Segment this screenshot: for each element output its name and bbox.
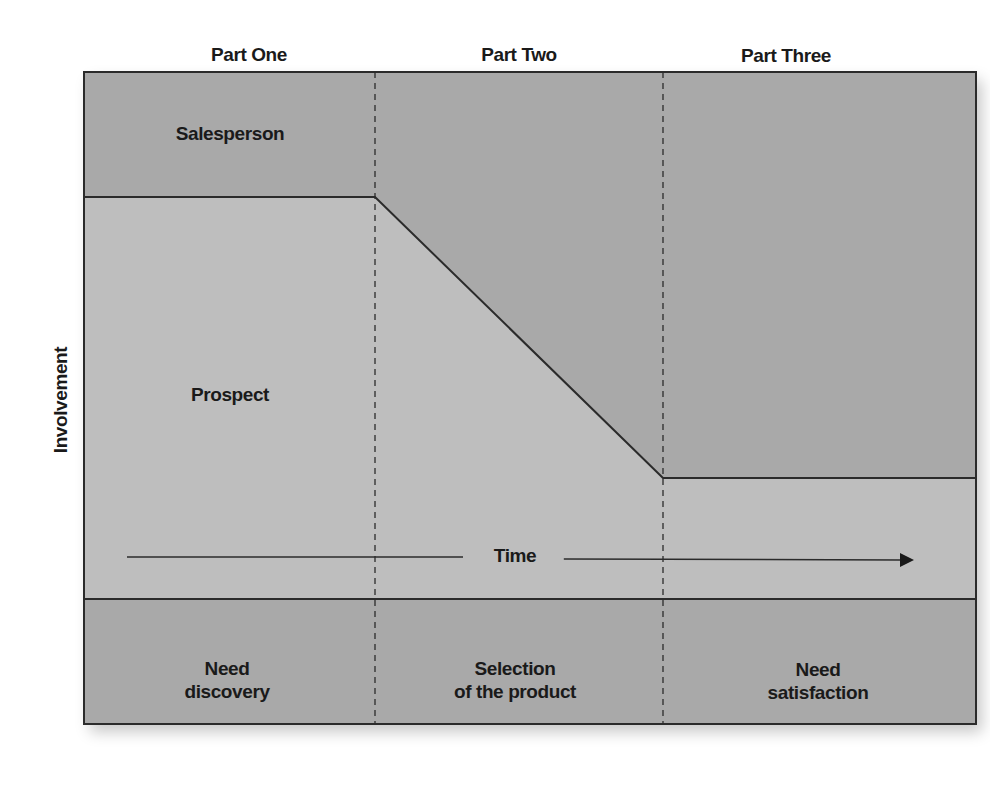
phase-selection-of-product: Selection of the product xyxy=(454,657,576,703)
x-axis-label: Time xyxy=(466,545,564,567)
phase-need-satisfaction: Need satisfaction xyxy=(768,658,869,704)
time-axis-line-right xyxy=(563,559,902,560)
part-three-header: Part Three xyxy=(741,44,831,67)
prospect-label: Prospect xyxy=(191,383,269,406)
phase-need-discovery: Need discovery xyxy=(184,657,269,703)
part-one-header: Part One xyxy=(211,43,287,66)
y-axis-label: Involvement xyxy=(50,347,72,453)
salesperson-label: Salesperson xyxy=(176,122,285,145)
part-two-header: Part Two xyxy=(481,43,557,66)
